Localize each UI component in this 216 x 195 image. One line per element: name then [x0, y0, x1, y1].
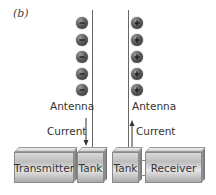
negative-charge-icon — [76, 68, 88, 80]
receiver-label: Receiver — [145, 152, 202, 183]
right-current-label: Current — [136, 125, 175, 137]
positive-charge-icon — [131, 17, 143, 29]
current-down-arrow-icon — [82, 118, 90, 148]
negative-charge-icon — [76, 17, 88, 29]
positive-charge-icon — [131, 84, 143, 96]
positive-charge-icon — [131, 68, 143, 80]
positive-charge-icon — [131, 51, 143, 63]
panel-label: (b) — [13, 7, 29, 20]
positive-charge-icon — [131, 34, 143, 46]
left-current-label: Current — [47, 125, 86, 137]
current-up-arrow-icon — [128, 118, 136, 148]
tank-left-label: Tank — [77, 152, 104, 183]
right-antenna-label: Antenna — [132, 100, 176, 112]
negative-charge-icon — [76, 51, 88, 63]
negative-charge-icon — [76, 34, 88, 46]
transmitter-label: Transmitter — [14, 152, 74, 183]
negative-charge-icon — [76, 84, 88, 96]
left-antenna-line — [92, 10, 93, 150]
tank-right-label: Tank — [112, 152, 139, 183]
left-antenna-label: Antenna — [50, 100, 94, 112]
